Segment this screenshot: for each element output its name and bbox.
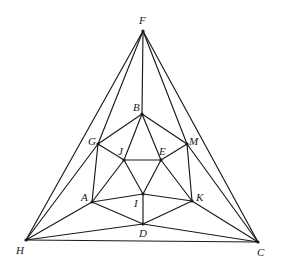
vertex-label-F: F bbox=[138, 14, 146, 26]
edge-F-H bbox=[26, 31, 143, 240]
graph-diagram: FBGMJEAIKDHC bbox=[0, 0, 283, 272]
vertex-label-G: G bbox=[88, 135, 96, 147]
edge-B-J bbox=[124, 114, 142, 160]
vertex-label-K: K bbox=[195, 191, 204, 203]
edge-F-C bbox=[143, 31, 258, 242]
edge-F-G bbox=[98, 31, 143, 144]
vertex-label-A: A bbox=[80, 191, 88, 203]
vertex-J bbox=[122, 158, 125, 161]
edge-B-G bbox=[98, 114, 142, 144]
edge-C-K bbox=[192, 201, 258, 242]
vertex-C bbox=[256, 240, 259, 243]
edge-F-B bbox=[142, 31, 143, 114]
vertex-label-M: M bbox=[188, 135, 199, 147]
vertex-H bbox=[24, 238, 27, 241]
vertex-label-D: D bbox=[138, 227, 147, 239]
vertex-label-B: B bbox=[133, 101, 140, 113]
edge-K-D bbox=[143, 201, 192, 224]
edges-group bbox=[26, 31, 258, 242]
edge-G-A bbox=[92, 144, 98, 202]
vertex-label-J: J bbox=[118, 145, 124, 157]
edge-H-C bbox=[26, 240, 258, 242]
vertex-I bbox=[141, 192, 144, 195]
edge-J-A bbox=[92, 160, 124, 202]
edge-H-D bbox=[26, 224, 143, 240]
edge-K-I bbox=[143, 194, 192, 201]
labels-group: FBGMJEAIKDHC bbox=[15, 14, 265, 258]
vertex-F bbox=[141, 29, 144, 32]
vertex-A bbox=[90, 200, 93, 203]
vertex-label-I: I bbox=[133, 197, 139, 209]
vertex-D bbox=[141, 222, 144, 225]
vertex-B bbox=[140, 112, 143, 115]
vertex-G bbox=[96, 142, 99, 145]
edge-H-A bbox=[26, 202, 92, 240]
edge-E-I bbox=[143, 160, 161, 194]
edge-E-K bbox=[161, 160, 192, 201]
vertex-label-E: E bbox=[158, 145, 166, 157]
vertex-K bbox=[190, 199, 193, 202]
edge-F-M bbox=[143, 31, 187, 144]
edge-J-I bbox=[124, 160, 143, 194]
edge-C-D bbox=[143, 224, 258, 242]
vertex-E bbox=[159, 158, 162, 161]
vertex-label-C: C bbox=[257, 246, 265, 258]
edge-M-K bbox=[187, 144, 192, 201]
vertices-group bbox=[24, 29, 259, 243]
vertex-label-H: H bbox=[15, 244, 25, 256]
